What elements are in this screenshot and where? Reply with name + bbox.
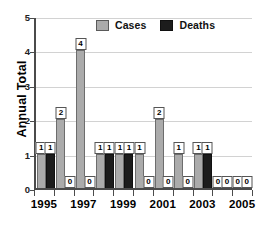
- x-tick-label: 2005: [229, 198, 255, 210]
- y-tick-label: 2: [18, 116, 30, 125]
- bar-slot-cases: 4: [76, 18, 85, 188]
- bar-value-label: 4: [75, 38, 86, 50]
- y-tick-label: 1: [18, 151, 30, 160]
- bar-group: 20: [56, 18, 76, 188]
- bar-slot-deaths: 0: [242, 18, 251, 188]
- x-tick-label: 1995: [31, 198, 57, 210]
- bar-groups: 1120401111102010110000: [36, 18, 252, 188]
- bar-cases[interactable]: [37, 154, 46, 188]
- bar-slot-cases: 1: [135, 18, 144, 188]
- bar-value-label: 0: [64, 176, 75, 188]
- bar-cases[interactable]: [115, 154, 124, 188]
- bar-group: 00: [232, 18, 252, 188]
- bar-slot-deaths: 1: [105, 18, 114, 188]
- bar-value-label: 0: [163, 176, 174, 188]
- x-tick-mark: [252, 190, 253, 196]
- x-axis-labels: 199519971999200120032005: [34, 198, 252, 216]
- bar-slot-deaths: 0: [144, 18, 153, 188]
- bar-slot-cases: 2: [155, 18, 164, 188]
- x-tick-mark: [232, 190, 233, 196]
- bar-deaths[interactable]: [203, 154, 212, 188]
- bar-group: 10: [134, 18, 154, 188]
- x-tick-mark: [54, 190, 55, 196]
- x-tick-mark: [93, 190, 94, 196]
- bar-value-label: 0: [143, 176, 154, 188]
- bar-slot-deaths: 1: [203, 18, 212, 188]
- x-tick-label: 1997: [70, 198, 96, 210]
- bar-slot-cases: 1: [115, 18, 124, 188]
- bar-slot-cases: 1: [37, 18, 46, 188]
- y-tick-label: 0: [18, 185, 30, 194]
- bar-value-label: 2: [55, 107, 66, 119]
- x-tick-mark: [193, 190, 194, 196]
- y-tick-label: 3: [18, 82, 30, 91]
- bar-group: 20: [154, 18, 174, 188]
- bar-group: 11: [95, 18, 115, 188]
- bar-slot-cases: 0: [233, 18, 242, 188]
- bar-slot-deaths: 0: [65, 18, 74, 188]
- bar-value-label: 1: [134, 142, 145, 154]
- bar-slot-cases: 1: [174, 18, 183, 188]
- bar-value-label: 1: [123, 142, 134, 154]
- bar-cases[interactable]: [194, 154, 203, 188]
- bar-value-label: 1: [104, 142, 115, 154]
- bar-slot-cases: 1: [194, 18, 203, 188]
- bar-slot-deaths: 0: [223, 18, 232, 188]
- bar-slot-deaths: 1: [46, 18, 55, 188]
- x-tick-label: 1999: [110, 198, 136, 210]
- bar-slot-deaths: 0: [183, 18, 192, 188]
- bar-slot-deaths: 0: [85, 18, 94, 188]
- x-tick-mark: [113, 190, 114, 196]
- bar-cases[interactable]: [76, 50, 85, 188]
- bar-deaths[interactable]: [124, 154, 133, 188]
- bar-group: 11: [115, 18, 135, 188]
- x-tick-mark: [212, 190, 213, 196]
- bar-value-label: 0: [241, 176, 252, 188]
- x-axis-ticks: [34, 190, 252, 197]
- bar-value-label: 2: [154, 107, 165, 119]
- x-tick-label: 2003: [189, 198, 215, 210]
- x-tick-mark: [133, 190, 134, 196]
- bar-slot-cases: 2: [56, 18, 65, 188]
- y-tick-label: 5: [18, 13, 30, 22]
- bar-group: 10: [173, 18, 193, 188]
- bar-value-label: 1: [173, 142, 184, 154]
- bar-slot-deaths: 0: [164, 18, 173, 188]
- x-tick-mark: [153, 190, 154, 196]
- x-tick-mark: [173, 190, 174, 196]
- y-tick-label: 4: [18, 47, 30, 56]
- bar-value-label: 0: [222, 176, 233, 188]
- bar-group: 11: [193, 18, 213, 188]
- bar-deaths[interactable]: [105, 154, 114, 188]
- bar-group: 40: [75, 18, 95, 188]
- bar-cases[interactable]: [96, 154, 105, 188]
- y-axis-title: Annual Total: [15, 44, 29, 154]
- bar-slot-cases: 1: [96, 18, 105, 188]
- plot-area: 1120401111102010110000: [34, 18, 252, 190]
- x-tick-label: 2001: [150, 198, 176, 210]
- bar-group: 11: [36, 18, 56, 188]
- bar-slot-deaths: 1: [124, 18, 133, 188]
- x-tick-mark: [34, 190, 35, 196]
- bar-value-label: 0: [182, 176, 193, 188]
- x-tick-mark: [74, 190, 75, 196]
- bar-group: 00: [213, 18, 233, 188]
- bar-slot-cases: 0: [214, 18, 223, 188]
- bar-value-label: 1: [202, 142, 213, 154]
- bar-value-label: 1: [45, 142, 56, 154]
- bar-value-label: 0: [84, 176, 95, 188]
- bar-chart: Cases Deaths Annual Total 012345 1120401…: [0, 0, 258, 227]
- bar-deaths[interactable]: [46, 154, 55, 188]
